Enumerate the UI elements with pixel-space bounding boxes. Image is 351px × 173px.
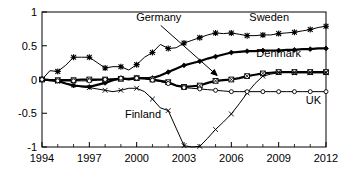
data-point-circle xyxy=(119,76,123,80)
series-annotation-denmark: Denmark xyxy=(256,47,301,59)
data-point-star xyxy=(197,35,203,41)
data-point-star xyxy=(55,68,61,74)
data-point-circle xyxy=(324,90,328,94)
data-point-diamond xyxy=(229,50,234,55)
data-point-diamond xyxy=(324,46,329,51)
data-point-diamond xyxy=(308,47,313,52)
series-annotation-germany: Germany xyxy=(136,11,182,23)
data-point-diamond xyxy=(87,85,92,90)
series-annotation-sweden: Sweden xyxy=(249,11,289,23)
annotation-arrow-line xyxy=(161,25,217,75)
x-tick-label: 2006 xyxy=(219,152,243,164)
x-tick-label: 2003 xyxy=(172,152,196,164)
data-point-circle xyxy=(135,76,139,80)
data-point-circle xyxy=(229,90,233,94)
data-point-x xyxy=(150,97,155,102)
data-point-circle xyxy=(245,90,249,94)
data-point-star xyxy=(118,64,124,70)
data-point-x xyxy=(229,112,234,117)
line-chart: -1-0.500.511994199720002003200620092012G… xyxy=(0,0,351,173)
data-point-x xyxy=(166,108,171,113)
data-point-circle xyxy=(261,90,265,94)
data-point-star xyxy=(244,33,250,39)
series-annotation-finland: Finland xyxy=(125,108,161,120)
data-point-star xyxy=(71,54,77,60)
data-point-circle xyxy=(150,78,154,82)
y-tick-label: 1 xyxy=(31,6,37,18)
data-point-x xyxy=(213,127,218,132)
data-point-star xyxy=(165,45,171,51)
x-tick-label: 1994 xyxy=(30,152,54,164)
data-point-circle xyxy=(87,79,91,83)
data-point-star xyxy=(213,30,219,36)
series-annotation-uk: UK xyxy=(306,94,322,106)
x-tick-label: 2000 xyxy=(124,152,148,164)
data-point-star xyxy=(86,54,92,60)
data-point-circle xyxy=(214,88,218,92)
data-point-star xyxy=(276,31,282,37)
y-tick-label: 0.5 xyxy=(22,40,37,52)
data-point-star xyxy=(307,27,313,33)
data-point-circle xyxy=(72,79,76,83)
data-point-circle xyxy=(182,86,186,90)
series-finland xyxy=(40,70,329,148)
data-point-star xyxy=(181,40,187,46)
x-tick-label: 1997 xyxy=(77,152,101,164)
x-tick-label: 2009 xyxy=(266,152,290,164)
data-point-circle xyxy=(277,90,281,94)
x-tick-label: 2012 xyxy=(314,152,338,164)
data-point-star xyxy=(228,30,234,36)
data-point-circle xyxy=(292,90,296,94)
series-line xyxy=(42,72,326,147)
data-point-star xyxy=(291,29,297,35)
data-point-circle xyxy=(40,78,44,82)
data-point-star xyxy=(149,50,155,56)
data-point-star xyxy=(134,62,140,68)
data-point-star xyxy=(260,32,266,38)
data-point-circle xyxy=(56,79,60,83)
data-point-circle xyxy=(166,82,170,86)
data-point-diamond xyxy=(245,49,250,54)
chart-container: -1-0.500.511994199720002003200620092012G… xyxy=(0,0,351,173)
data-point-circle xyxy=(103,78,107,82)
data-point-circle xyxy=(308,90,312,94)
data-point-diamond xyxy=(213,54,218,59)
data-point-circle xyxy=(198,87,202,91)
data-point-star xyxy=(102,65,108,71)
y-tick-label: 0 xyxy=(31,74,37,86)
y-tick-label: -0.5 xyxy=(18,107,37,119)
data-point-star xyxy=(323,23,329,29)
